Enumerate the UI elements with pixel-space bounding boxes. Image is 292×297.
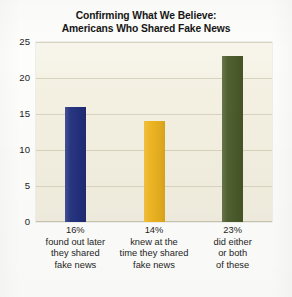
bar-14pct <box>144 121 165 222</box>
chart-figure: Confirming What We Believe: Americans Wh… <box>0 0 292 297</box>
chart-title-line-1: Confirming What We Believe: <box>76 10 217 21</box>
x-label-desc-line-2: time they shared <box>115 248 194 260</box>
x-label-desc-line-3: of these <box>193 260 272 272</box>
x-label-desc-line-2: they shared <box>36 248 115 260</box>
chart-title-line-2: Americans Who Shared Fake News <box>0 22 292 35</box>
x-label-percent: 14% <box>115 225 194 237</box>
bars-layer <box>36 42 272 222</box>
x-label-23pct: 23%did eitheror bothof these <box>193 225 272 271</box>
bar-body <box>65 107 86 222</box>
y-tick-label-25: 25 <box>4 37 30 47</box>
x-label-16pct: 16%found out laterthey sharedfake news <box>36 225 115 271</box>
y-tick-label-15: 15 <box>4 109 30 119</box>
x-label-desc-line-1: did either <box>193 237 272 249</box>
bar-23pct <box>222 56 243 222</box>
y-tick-label-0: 0 <box>4 217 30 227</box>
bar-body <box>144 121 165 222</box>
x-label-desc-line-1: knew at the <box>115 237 194 249</box>
bar-body <box>222 56 243 222</box>
y-tick-label-20: 20 <box>4 73 30 83</box>
bar-16pct <box>65 107 86 222</box>
x-axis-labels: 16%found out laterthey sharedfake news14… <box>36 225 272 295</box>
x-label-desc-line-3: fake news <box>36 260 115 272</box>
x-label-percent: 23% <box>193 225 272 237</box>
y-tick-label-5: 5 <box>4 181 30 191</box>
x-label-desc-line-1: found out later <box>36 237 115 249</box>
x-label-14pct: 14%knew at thetime they sharedfake news <box>115 225 194 271</box>
x-label-desc-line-2: or both <box>193 248 272 260</box>
y-tick-label-10: 10 <box>4 145 30 155</box>
x-label-percent: 16% <box>36 225 115 237</box>
chart-title: Confirming What We Believe: Americans Wh… <box>0 9 292 35</box>
plot-area <box>36 42 272 222</box>
x-label-desc-line-3: fake news <box>115 260 194 272</box>
